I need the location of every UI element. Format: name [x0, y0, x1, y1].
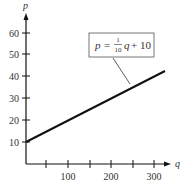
- series-line: [26, 71, 165, 142]
- equation-variable: q: [124, 39, 130, 51]
- y-tick-label: 50: [9, 49, 19, 60]
- equation-denominator: 10: [115, 46, 123, 54]
- x-tick-label: 300: [147, 171, 162, 182]
- arrow-up-icon: [24, 13, 29, 20]
- leader-line: [113, 58, 130, 84]
- x-axis-label: q: [175, 158, 180, 169]
- y-axis-label: p: [22, 0, 28, 11]
- equation-numerator: 1: [116, 36, 120, 44]
- x-axis: q 100 200 300: [26, 158, 180, 182]
- equation-annotation: p = 1 10 q + 10: [89, 33, 154, 84]
- chart: p 10 20 30 40 50 60 q 100 200 300 p =: [0, 0, 188, 192]
- y-tick-label: 60: [9, 28, 19, 39]
- y-tick-label: 20: [9, 115, 19, 126]
- equation-equals: =: [104, 39, 110, 51]
- equation-lhs: p: [94, 39, 101, 51]
- y-axis: p 10 20 30 40 50 60: [9, 0, 30, 164]
- y-tick-label: 40: [9, 71, 19, 82]
- equation-constant: + 10: [131, 39, 151, 51]
- x-tick-label: 200: [104, 171, 119, 182]
- x-tick-label: 100: [61, 171, 76, 182]
- y-tick-label: 10: [9, 137, 19, 148]
- y-tick-label: 30: [9, 93, 19, 104]
- arrow-right-icon: [164, 162, 171, 167]
